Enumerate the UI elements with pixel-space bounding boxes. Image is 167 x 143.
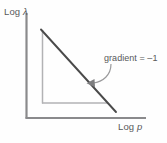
data-line <box>41 30 116 113</box>
annotation-arrow <box>93 64 111 83</box>
gradient-annotation-label: gradient = –1 <box>104 53 157 63</box>
y-axis-label: Log λ <box>4 6 28 17</box>
x-axis-label: Log p <box>118 121 142 132</box>
x-axis-label-variable: p <box>137 121 142 132</box>
y-axis-label-prefix: Log <box>4 6 23 17</box>
x-axis-label-prefix: Log <box>118 121 137 132</box>
figure-container: Log λ Log p gradient = –1 <box>0 0 167 143</box>
y-axis-label-variable: λ <box>23 6 28 17</box>
